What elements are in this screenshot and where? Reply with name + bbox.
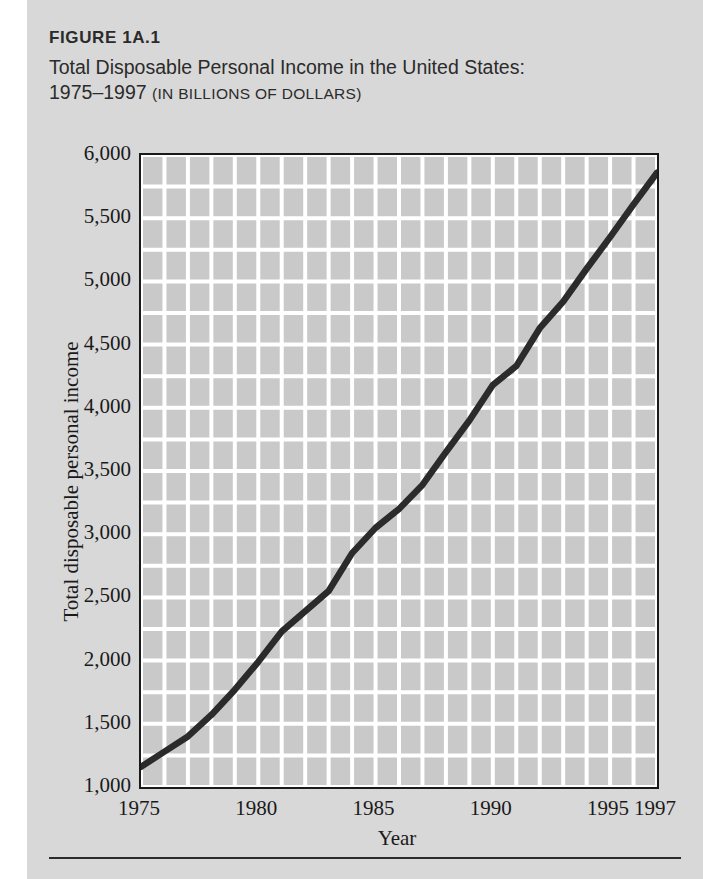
x-axis-tick-label: 1997	[634, 796, 676, 821]
x-axis-tick-label: 1975	[118, 796, 160, 821]
y-axis-tick-label: 3,500	[45, 457, 131, 482]
y-axis-tick-labels: 6,0005,5005,0004,5004,0003,5003,0002,500…	[37, 153, 131, 785]
plot-area	[139, 153, 659, 789]
y-axis-tick-label: 5,000	[45, 267, 131, 292]
chart-container: Total disposable personal income 6,0005,…	[27, 140, 703, 840]
figure-title-units: (IN BILLIONS OF DOLLARS)	[152, 85, 362, 102]
y-axis-tick-label: 5,500	[45, 204, 131, 229]
plot-inner	[141, 155, 657, 787]
x-axis-tick-label: 1995	[587, 796, 629, 821]
data-line-series	[141, 155, 657, 787]
figure-title: Total Disposable Personal Income in the …	[49, 55, 679, 106]
figure-bottom-rule	[49, 857, 681, 859]
figure-number: FIGURE 1A.1	[49, 28, 679, 48]
y-axis-tick-label: 4,000	[45, 393, 131, 418]
y-axis-tick-label: 1,500	[45, 709, 131, 734]
x-axis-tick-label: 1990	[470, 796, 512, 821]
y-axis-tick-label: 2,500	[45, 583, 131, 608]
figure-heading: FIGURE 1A.1 Total Disposable Personal In…	[49, 28, 679, 106]
figure-title-line2: 1975–1997 (IN BILLIONS OF DOLLARS)	[49, 80, 679, 105]
figure-title-years: 1975–1997	[49, 81, 152, 103]
y-axis-tick-label: 6,000	[45, 141, 131, 166]
y-axis-tick-label: 2,000	[45, 646, 131, 671]
figure-title-line1: Total Disposable Personal Income in the …	[49, 56, 525, 78]
y-axis-tick-label: 4,500	[45, 330, 131, 355]
x-axis-tick-label: 1985	[353, 796, 395, 821]
x-axis-title: Year	[139, 826, 655, 851]
y-axis-tick-label: 1,000	[45, 773, 131, 798]
x-axis-tick-label: 1980	[235, 796, 277, 821]
figure-panel: FIGURE 1A.1 Total Disposable Personal In…	[27, 0, 703, 879]
y-axis-tick-label: 3,000	[45, 520, 131, 545]
